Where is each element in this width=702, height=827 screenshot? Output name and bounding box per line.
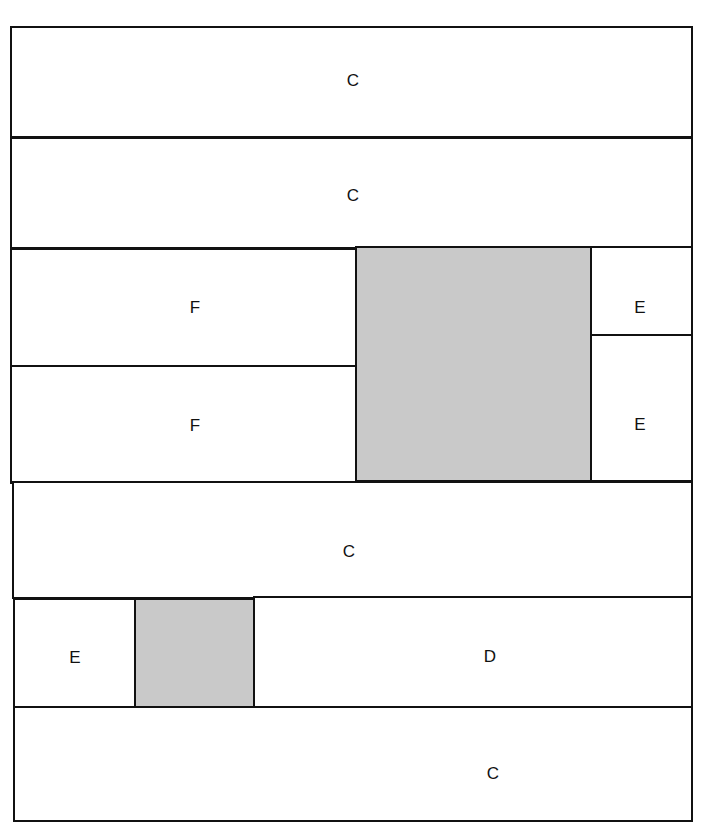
label-row4-c: C [343,543,355,560]
cell-row3-f1 [10,248,357,367]
cell-row3-f2 [10,365,359,484]
label-row5-d: D [484,648,496,665]
label-row3-f1: F [190,299,200,316]
cell-row6-c [13,706,693,822]
label-row5-e: E [69,649,80,666]
label-row3-e2: E [634,416,645,433]
cell-row3-e2 [589,334,693,482]
label-row6-c: C [487,765,499,782]
label-row3-f2: F [190,417,200,434]
shaded-block-small [134,598,255,710]
label-row2-c: C [347,187,359,204]
cell-row4-c [12,481,693,599]
shaded-block-large [355,246,592,482]
label-row1-c: C [347,72,359,89]
cell-row3-e1 [589,246,693,336]
label-row3-e1: E [634,299,645,316]
panel-layout-diagram: C C F F E E C E D C [0,0,702,827]
cell-row5-d [253,596,693,708]
